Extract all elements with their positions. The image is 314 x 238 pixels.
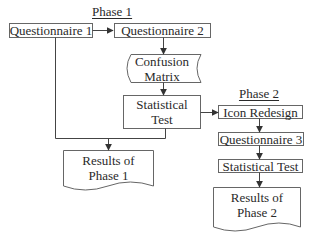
icon-redesign-label: Icon Redesign: [223, 105, 298, 120]
questionnaire2-node: Questionnaire 2: [114, 23, 211, 38]
statistical-test1-line2: Test: [151, 112, 172, 127]
icon-redesign-node: Icon Redesign: [218, 105, 303, 119]
results-phase2-line2: Phase 2: [237, 205, 277, 220]
results-phase1-line1: Results of: [82, 153, 134, 168]
phase1-label: Phase 1: [92, 5, 132, 19]
questionnaire3-label: Questionnaire 3: [220, 132, 303, 147]
phase2-label: Phase 2: [238, 87, 280, 101]
results-phase2-line1: Results of: [231, 190, 283, 205]
questionnaire2-label: Questionnaire 2: [121, 23, 204, 38]
results-phase1-line2: Phase 1: [88, 168, 128, 183]
confusion-matrix-line2: Matrix: [144, 69, 179, 84]
results-phase1-node: Results of Phase 1: [63, 152, 154, 183]
statistical-test2-node: Statistical Test: [218, 159, 303, 173]
statistical-test1-line1: Statistical: [136, 97, 187, 112]
questionnaire1-label: Questionnaire 1: [10, 23, 93, 38]
statistical-test1-node: Statistical Test: [123, 95, 201, 129]
results-phase2-node: Results of Phase 2: [213, 189, 301, 220]
confusion-matrix-node: Confusion Matrix: [125, 54, 199, 83]
questionnaire1-node: Questionnaire 1: [9, 23, 93, 38]
confusion-matrix-line1: Confusion: [135, 54, 189, 69]
statistical-test2-label: Statistical Test: [223, 159, 299, 174]
questionnaire3-node: Questionnaire 3: [218, 132, 304, 146]
